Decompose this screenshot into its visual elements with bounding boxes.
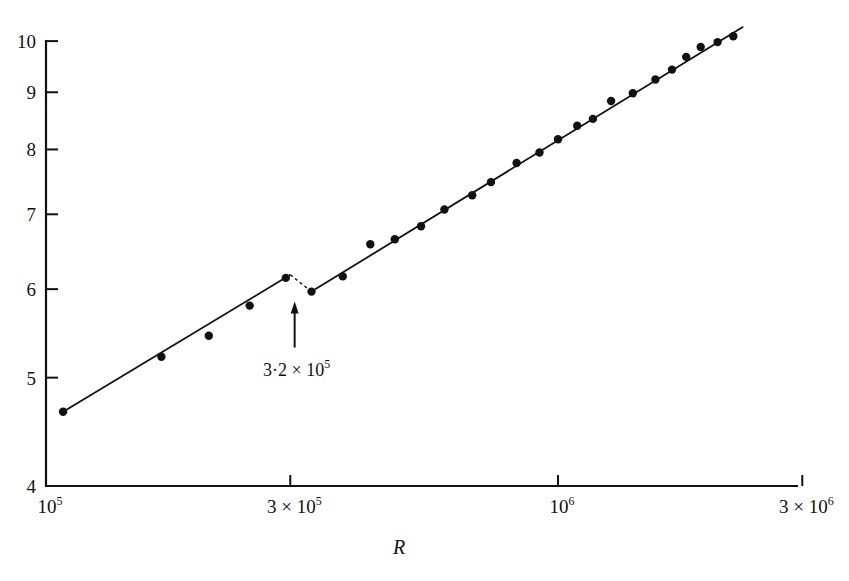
data-point xyxy=(589,115,597,123)
data-point xyxy=(554,135,562,143)
arrow-up-icon xyxy=(291,302,299,314)
data-point xyxy=(391,235,399,243)
data-point xyxy=(468,191,476,199)
y-ticks: 45678910 xyxy=(17,31,58,497)
y-tick-label: 7 xyxy=(27,204,37,225)
data-point xyxy=(246,301,254,309)
y-tick-label: 5 xyxy=(27,368,37,389)
data-point xyxy=(668,65,676,73)
x-tick-label: 3 × 106 xyxy=(779,494,834,517)
y-tick-label: 8 xyxy=(27,139,37,160)
x-tick-label: 3 × 105 xyxy=(267,494,322,517)
log-log-chart: 45678910 1053 × 1051063 × 106 3·2 × 105 … xyxy=(0,0,849,581)
data-point xyxy=(729,32,737,40)
y-tick-label: 9 xyxy=(27,82,37,103)
transition-label: 3·2 × 105 xyxy=(263,357,330,380)
data-point xyxy=(59,408,67,416)
data-point xyxy=(417,222,425,230)
data-point xyxy=(682,53,690,61)
data-point xyxy=(440,205,448,213)
data-point xyxy=(487,178,495,186)
transition-annotation: 3·2 × 105 xyxy=(263,302,330,380)
data-point xyxy=(629,89,637,97)
fit-below-transition-line xyxy=(63,275,290,412)
x-ticks: 1053 × 1051063 × 106 xyxy=(38,475,834,517)
y-tick-label: 10 xyxy=(17,31,36,52)
data-point xyxy=(307,287,315,295)
data-point xyxy=(607,97,615,105)
data-point xyxy=(205,332,213,340)
data-point xyxy=(157,353,165,361)
fit-lines xyxy=(63,27,743,412)
data-point xyxy=(573,122,581,130)
x-tick-label: 106 xyxy=(550,494,575,517)
data-point xyxy=(339,272,347,280)
data-point xyxy=(697,43,705,51)
data-point xyxy=(282,274,290,282)
axes xyxy=(45,40,798,487)
data-point xyxy=(651,75,659,83)
y-tick-label: 4 xyxy=(27,476,37,497)
x-tick-label: 105 xyxy=(38,494,63,517)
data-point xyxy=(366,240,374,248)
y-tick-label: 6 xyxy=(27,279,37,300)
data-point xyxy=(713,38,721,46)
x-axis-title: R xyxy=(392,536,405,558)
data-point xyxy=(535,148,543,156)
fit-above-transition-line xyxy=(312,27,744,292)
data-point xyxy=(512,159,520,167)
data-points xyxy=(59,32,738,416)
